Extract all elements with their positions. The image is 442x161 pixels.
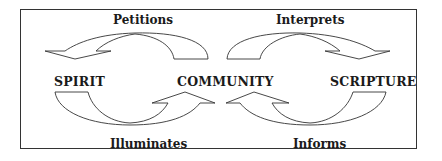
edge-label-petitions: Petitions — [113, 14, 173, 26]
node-community: COMMUNITY — [177, 76, 274, 89]
arrow-informs-icon — [226, 92, 386, 125]
edge-label-interprets: Interprets — [276, 14, 344, 26]
arrow-interprets-icon — [227, 33, 390, 59]
node-spirit: SPIRIT — [54, 76, 105, 89]
arrow-illuminates-icon — [55, 92, 215, 125]
edge-label-illuminates: Illuminates — [110, 138, 187, 150]
edge-label-informs: Informs — [293, 138, 346, 150]
node-scripture: SCRIPTURE — [330, 76, 417, 89]
arrow-petitions-icon — [45, 33, 208, 59]
